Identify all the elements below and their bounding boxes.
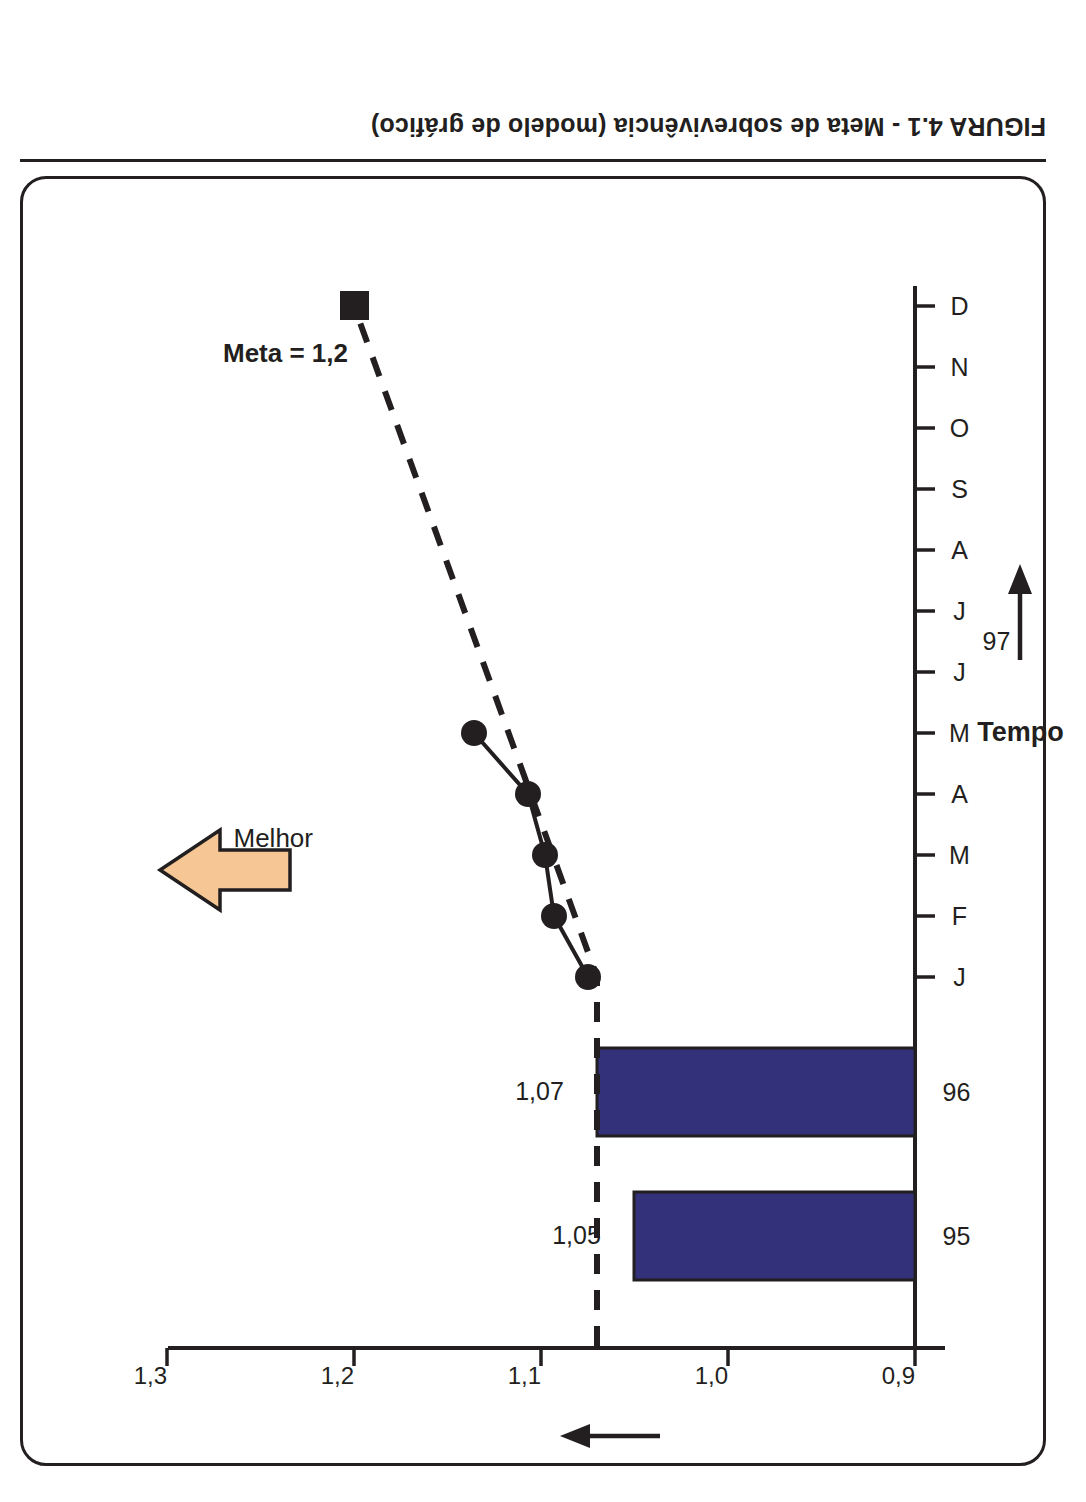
chart-plot-area: 0,9 1,0 1,1 1,2 1,3 Produtividade 1,05 1… <box>20 176 1046 1466</box>
x-axis-title: Tempo <box>977 717 1064 748</box>
x-tick-label-oct: O <box>940 414 980 443</box>
year-label-95: 95 <box>937 1222 977 1251</box>
bar-value-label-95: 1,05 <box>534 1221 620 1250</box>
x-tick-label-may: M <box>940 719 980 748</box>
bar-value-label-96: 1,07 <box>497 1077 583 1106</box>
x-tick-label-aug: A <box>940 536 980 565</box>
x-tick-label-sep: S <box>940 475 980 504</box>
y-tick-label-0: 0,9 <box>823 1362 915 1390</box>
figure-caption: FIGURA 4.1 - Meta de sobrevivência (mode… <box>20 104 1046 150</box>
data-point-jan <box>575 964 601 990</box>
x-tick-label-dec: D <box>940 292 980 321</box>
rotated-figure-stage: FIGURA 4.1 - Meta de sobrevivência (mode… <box>0 0 1086 1502</box>
year-label-96: 96 <box>937 1078 977 1107</box>
x-tick-label-nov: N <box>940 353 980 382</box>
x-tick-label-jul: J <box>940 597 980 626</box>
x-tick-label-apr: A <box>940 780 980 809</box>
meta-square-marker <box>340 291 369 320</box>
data-point-mar <box>532 842 558 868</box>
y-tick-label-1: 1,0 <box>636 1362 728 1390</box>
melhor-annotation-label: Melhor <box>234 823 313 854</box>
bar-96 <box>597 1048 915 1136</box>
x-tick-label-mar: M <box>940 841 980 870</box>
productivity-line <box>474 733 588 977</box>
meta-annotation-label: Meta = 1,2 <box>223 338 348 369</box>
y-tick-label-4: 1,3 <box>75 1362 167 1390</box>
target-dashed-line <box>354 306 597 1346</box>
x-tick-label-jan: J <box>940 963 980 992</box>
caption-divider <box>20 159 1046 162</box>
year-label-97: 97 <box>977 627 1017 656</box>
y-tick-label-3: 1,2 <box>262 1362 354 1390</box>
x-tick-label-jun: J <box>940 658 980 687</box>
bar-95 <box>634 1192 915 1280</box>
x-tick-label-feb: F <box>940 902 980 931</box>
data-point-feb <box>541 903 567 929</box>
y-tick-label-2: 1,1 <box>449 1362 541 1390</box>
y-axis-arrow-icon <box>560 1424 660 1448</box>
data-point-apr <box>515 781 541 807</box>
chart-svg <box>20 176 1046 1466</box>
data-point-may <box>461 720 487 746</box>
